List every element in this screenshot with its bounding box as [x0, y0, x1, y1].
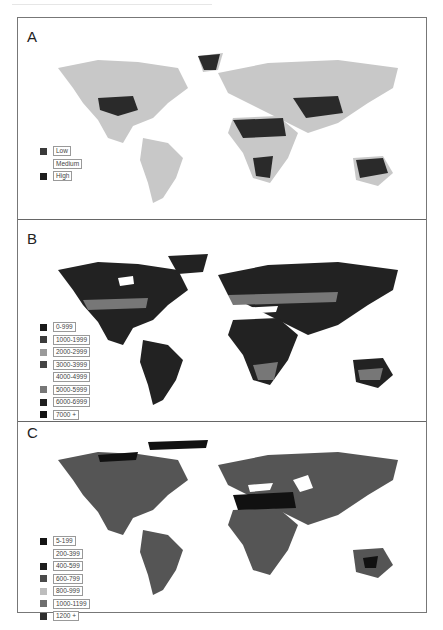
legend-item: 4000-4999 [40, 372, 90, 383]
legend-item: 0-999 [40, 322, 90, 333]
legend-label: 2000-2999 [53, 347, 90, 357]
legend-label: 400-599 [53, 561, 83, 571]
legend-item: 600-799 [40, 574, 90, 585]
legend-swatch [40, 374, 47, 381]
legend-swatch [40, 563, 47, 570]
legend-swatch [40, 386, 47, 393]
panel-c: C 5-199 200-399 400-599 [18, 422, 426, 614]
legend-swatch [40, 361, 47, 368]
legend-item: 7000 + [40, 410, 90, 421]
panel-a: A Low [18, 18, 426, 219]
legend-swatch [40, 588, 47, 595]
world-map-a [38, 48, 413, 208]
legend-swatch [40, 613, 47, 620]
legend-swatch [40, 324, 47, 331]
top-rule [12, 4, 212, 5]
legend-item: 5-199 [40, 536, 90, 547]
panel-b: B 0-999 1000-1999 [18, 220, 426, 421]
legend-swatch [40, 399, 47, 406]
legend-swatch [40, 411, 47, 418]
legend-label: 5-199 [53, 536, 76, 546]
legend-label: 0-999 [53, 322, 76, 332]
legend-item: High [40, 171, 82, 182]
legend-swatch [40, 349, 47, 356]
legend-swatch [40, 336, 47, 343]
legend-label: 800-999 [53, 586, 83, 596]
panel-label: C [27, 424, 38, 441]
legend-item: 6000-6999 [40, 397, 90, 408]
world-map-c [38, 440, 413, 600]
legend-label: 1000-1199 [53, 599, 90, 609]
legend-label: 7000 + [53, 410, 79, 420]
legend-swatch [40, 173, 47, 180]
legend-label: High [53, 171, 72, 181]
legend-swatch [40, 575, 47, 582]
legend-item: 3000-3999 [40, 360, 90, 371]
legend-swatch [40, 600, 47, 607]
legend-item: 1000-1199 [40, 599, 90, 610]
legend-a: Low Medium High [40, 146, 82, 184]
panel-label: A [27, 28, 37, 45]
legend-label: 1200 + [53, 611, 79, 621]
legend-label: 3000-3999 [53, 360, 90, 370]
legend-swatch [40, 148, 47, 155]
legend-label: 1000-1999 [53, 335, 90, 345]
legend-label: 4000-4999 [53, 372, 90, 382]
legend-swatch [40, 160, 47, 167]
legend-item: 800-999 [40, 586, 90, 597]
legend-label: Low [53, 146, 71, 156]
legend-item: 200-399 [40, 549, 90, 560]
legend-item: Low [40, 146, 82, 157]
legend-item: 2000-2999 [40, 347, 90, 358]
legend-b: 0-999 1000-1999 2000-2999 3000-3999 4000… [40, 322, 90, 422]
legend-swatch [40, 550, 47, 557]
legend-item: 400-599 [40, 561, 90, 572]
legend-label: 200-399 [53, 549, 83, 559]
legend-item: 1200 + [40, 611, 90, 622]
legend-item: 5000-5999 [40, 385, 90, 396]
panel-label: B [27, 230, 37, 247]
legend-label: 600-799 [53, 574, 83, 584]
figure-frame: A Low [17, 17, 427, 613]
legend-item: Medium [40, 159, 82, 170]
legend-c: 5-199 200-399 400-599 600-799 800-999 10… [40, 536, 90, 624]
legend-swatch [40, 538, 47, 545]
legend-item: 1000-1999 [40, 335, 90, 346]
world-map-b [38, 250, 413, 410]
legend-label: 6000-6999 [53, 397, 90, 407]
legend-label: Medium [53, 159, 82, 169]
legend-label: 5000-5999 [53, 385, 90, 395]
